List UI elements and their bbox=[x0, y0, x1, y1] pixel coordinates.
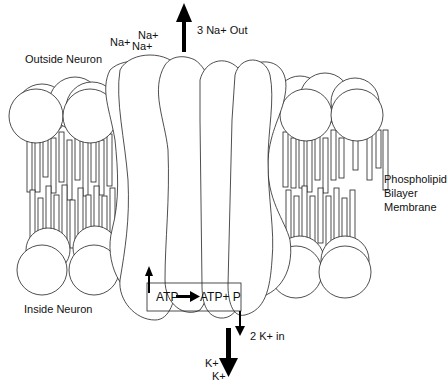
pump-protein bbox=[106, 55, 291, 320]
membrane-label-line1: Phospholipid bbox=[384, 173, 447, 186]
atp-products-label: ATP+ P bbox=[200, 291, 241, 304]
inside-neuron-label: Inside Neuron bbox=[24, 303, 93, 316]
pump-subunit-right bbox=[228, 60, 273, 315]
k-in-small-arrow-head bbox=[235, 326, 245, 336]
k-ion-1: K+ bbox=[205, 357, 219, 370]
na-out-arrow-head bbox=[176, 3, 192, 22]
na-ion-1: Na+ bbox=[110, 36, 131, 49]
k-ion-2: K+ bbox=[212, 370, 226, 380]
right-lipid-tails bbox=[283, 128, 388, 246]
outside-neuron-label: Outside Neuron bbox=[25, 53, 102, 66]
k-in-label: 2 K+ in bbox=[250, 330, 285, 343]
atp-label: ATP bbox=[156, 291, 178, 304]
na-out-label: 3 Na+ Out bbox=[197, 24, 247, 37]
na-out-arrow-shaft bbox=[182, 20, 186, 52]
membrane-label-line2: Bilayer bbox=[384, 187, 418, 200]
na-ion-3: Na+ bbox=[132, 40, 153, 53]
k-in-large-arrow-shaft bbox=[226, 328, 231, 362]
membrane-label-line3: Membrane bbox=[384, 201, 437, 214]
